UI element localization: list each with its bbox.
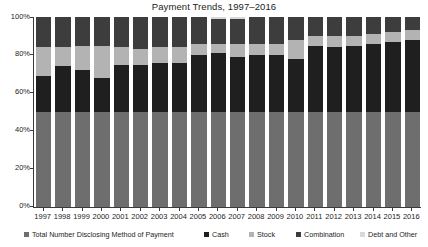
bar-column[interactable] (152, 17, 168, 207)
bar-segment[interactable] (94, 112, 110, 207)
bar-segment[interactable] (191, 17, 207, 44)
bar-column[interactable] (114, 17, 130, 207)
legend-item[interactable]: Stock (249, 229, 275, 240)
bar-segment[interactable] (385, 17, 401, 32)
bar-segment[interactable] (385, 32, 401, 42)
bar-segment[interactable] (269, 17, 285, 44)
bar-column[interactable] (94, 17, 110, 207)
bar-segment[interactable] (211, 112, 227, 207)
legend-item[interactable]: Total Number Disclosing Method of Paymen… (24, 229, 174, 240)
bar-segment[interactable] (230, 44, 246, 57)
bar-segment[interactable] (288, 112, 304, 207)
bar-segment[interactable] (172, 17, 188, 47)
bar-segment[interactable] (269, 55, 285, 112)
bar-column[interactable] (269, 17, 285, 207)
bar-segment[interactable] (230, 57, 246, 112)
bar-segment[interactable] (230, 19, 246, 44)
bar-segment[interactable] (405, 17, 421, 30)
bar-column[interactable] (75, 17, 91, 207)
bar-segment[interactable] (152, 17, 168, 47)
bar-segment[interactable] (172, 63, 188, 112)
bar-segment[interactable] (211, 44, 227, 54)
bar-segment[interactable] (249, 112, 265, 207)
bar-segment[interactable] (191, 44, 207, 55)
bar-segment[interactable] (75, 70, 91, 112)
bar-segment[interactable] (366, 112, 382, 207)
bar-segment[interactable] (308, 36, 324, 46)
bar-segment[interactable] (55, 66, 71, 112)
bar-segment[interactable] (36, 76, 52, 112)
bar-segment[interactable] (405, 30, 421, 40)
bar-column[interactable] (385, 17, 401, 207)
bar-segment[interactable] (94, 78, 110, 112)
bar-column[interactable] (327, 17, 343, 207)
bar-segment[interactable] (366, 44, 382, 112)
bar-segment[interactable] (75, 17, 91, 46)
bar-column[interactable] (55, 17, 71, 207)
bar-segment[interactable] (152, 63, 168, 112)
legend-item[interactable]: Cash (204, 229, 229, 240)
bar-segment[interactable] (133, 112, 149, 207)
bar-column[interactable] (172, 17, 188, 207)
bar-segment[interactable] (114, 47, 130, 64)
bar-segment[interactable] (288, 17, 304, 40)
bar-column[interactable] (191, 17, 207, 207)
bar-segment[interactable] (172, 112, 188, 207)
bar-segment[interactable] (55, 112, 71, 207)
bar-segment[interactable] (75, 112, 91, 207)
bar-segment[interactable] (327, 17, 343, 36)
bar-segment[interactable] (55, 17, 71, 47)
bar-column[interactable] (249, 17, 265, 207)
bar-column[interactable] (405, 17, 421, 207)
bar-segment[interactable] (346, 17, 362, 36)
bar-segment[interactable] (133, 65, 149, 113)
bar-column[interactable] (36, 17, 52, 207)
bar-segment[interactable] (152, 112, 168, 207)
bar-column[interactable] (211, 17, 227, 207)
bar-segment[interactable] (55, 47, 71, 66)
bar-segment[interactable] (133, 17, 149, 49)
bar-segment[interactable] (191, 55, 207, 112)
bar-segment[interactable] (114, 112, 130, 207)
bar-segment[interactable] (172, 47, 188, 62)
bar-segment[interactable] (191, 112, 207, 207)
bar-segment[interactable] (94, 17, 110, 46)
bar-segment[interactable] (346, 112, 362, 207)
bar-segment[interactable] (36, 47, 52, 76)
bar-segment[interactable] (405, 112, 421, 207)
bar-segment[interactable] (211, 53, 227, 112)
legend-item[interactable]: Combination (296, 229, 344, 240)
bar-segment[interactable] (366, 34, 382, 44)
bar-segment[interactable] (94, 46, 110, 78)
bar-segment[interactable] (269, 112, 285, 207)
bar-segment[interactable] (385, 42, 401, 112)
bar-segment[interactable] (230, 112, 246, 207)
bar-segment[interactable] (346, 46, 362, 113)
bar-column[interactable] (366, 17, 382, 207)
bar-column[interactable] (288, 17, 304, 207)
bar-segment[interactable] (308, 17, 324, 36)
bar-column[interactable] (346, 17, 362, 207)
bar-segment[interactable] (211, 19, 227, 44)
bar-segment[interactable] (269, 44, 285, 55)
bar-segment[interactable] (366, 17, 382, 34)
bar-segment[interactable] (288, 59, 304, 112)
bar-segment[interactable] (405, 40, 421, 112)
bar-segment[interactable] (346, 36, 362, 46)
bar-segment[interactable] (288, 40, 304, 59)
bar-segment[interactable] (36, 112, 52, 207)
bar-segment[interactable] (249, 17, 265, 44)
legend-item[interactable]: Debt and Other (360, 229, 417, 240)
bar-segment[interactable] (385, 112, 401, 207)
bar-segment[interactable] (327, 47, 343, 112)
bar-column[interactable] (230, 17, 246, 207)
bar-column[interactable] (133, 17, 149, 207)
bar-segment[interactable] (133, 49, 149, 64)
bar-segment[interactable] (249, 44, 265, 55)
bar-segment[interactable] (308, 112, 324, 207)
bar-segment[interactable] (249, 55, 265, 112)
bar-segment[interactable] (327, 36, 343, 47)
bar-segment[interactable] (327, 112, 343, 207)
bar-segment[interactable] (75, 46, 91, 71)
bar-segment[interactable] (36, 17, 52, 47)
